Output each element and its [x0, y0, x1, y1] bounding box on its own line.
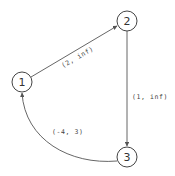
edge-1-2-label: (2, inf) [60, 45, 95, 70]
edge-2-3-label: (1, inf) [132, 93, 168, 101]
node-2-label: 2 [124, 15, 131, 28]
edge-1-2: (2, inf) [31, 26, 117, 77]
node-3-label: 3 [124, 151, 131, 164]
edge-2-3: (1, inf) [127, 31, 168, 146]
graph-diagram: (2, inf) (1, inf) (-4, 3) 1 2 3 [0, 0, 175, 176]
node-2: 2 [117, 11, 137, 31]
edge-1-2-line [31, 26, 117, 77]
edge-3-1: (-4, 3) [22, 93, 117, 161]
node-3: 3 [117, 147, 137, 167]
node-1-label: 1 [19, 76, 26, 89]
edge-3-1-label: (-4, 3) [52, 128, 84, 136]
node-1: 1 [12, 72, 32, 92]
